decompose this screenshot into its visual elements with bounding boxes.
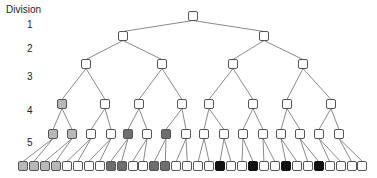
tree-edge <box>100 139 111 162</box>
tree-edge <box>300 139 319 162</box>
tree-edge <box>89 139 111 162</box>
tree-edge <box>319 139 330 162</box>
tree-edge <box>105 109 111 130</box>
tree-edge <box>243 109 253 130</box>
division-tree-diagram: Division 1 2 3 4 5 <box>0 0 377 178</box>
tree-edge <box>123 41 162 60</box>
tree-edge <box>139 69 162 100</box>
tree-edge <box>123 21 193 32</box>
tree-node-level-6 <box>292 161 302 171</box>
tree-node-level-6 <box>303 161 313 171</box>
tree-node-level-6 <box>248 161 258 171</box>
tree-node-level-4 <box>177 99 187 109</box>
tree-node-level-5 <box>48 129 58 139</box>
tree-node-level-3 <box>298 59 308 69</box>
tree-edge <box>331 109 339 130</box>
tree-edge <box>198 139 204 162</box>
tree-edge <box>263 139 264 162</box>
tree-edge <box>86 69 105 100</box>
tree-node-level-6 <box>325 161 335 171</box>
tree-edge <box>319 109 331 130</box>
tree-edge <box>287 69 303 100</box>
tree-edge <box>53 109 62 130</box>
tree-edge <box>233 41 264 60</box>
tree-edge <box>242 139 243 162</box>
tree-edge <box>319 139 341 162</box>
tree-edge <box>78 139 91 162</box>
tree-node-level-6 <box>29 161 39 171</box>
tree-node-level-5 <box>106 129 116 139</box>
tree-node-level-3 <box>157 59 167 69</box>
tree-edge <box>34 139 53 162</box>
tree-node-level-6 <box>18 161 28 171</box>
tree-edges <box>0 0 377 178</box>
tree-edge <box>204 109 209 130</box>
tree-node-level-1 <box>188 11 198 21</box>
tree-edge <box>182 109 186 130</box>
tree-node-level-5 <box>238 129 248 139</box>
tree-edge <box>193 21 264 32</box>
tree-node-level-6 <box>84 161 94 171</box>
tree-edge <box>220 139 224 162</box>
tree-node-level-6 <box>160 161 170 171</box>
tree-edge <box>162 69 182 100</box>
tree-node-level-5 <box>67 129 77 139</box>
tree-node-level-5 <box>181 129 191 139</box>
tree-node-level-3 <box>81 59 91 69</box>
tree-node-level-6 <box>73 161 83 171</box>
tree-node-level-4 <box>134 99 144 109</box>
tree-edge <box>128 109 139 130</box>
tree-node-level-6 <box>193 161 203 171</box>
tree-edge <box>209 69 233 100</box>
tree-edge <box>154 139 166 162</box>
tree-node-level-5 <box>258 129 268 139</box>
tree-edge <box>339 139 352 162</box>
tree-edge <box>166 109 182 130</box>
tree-node-level-6 <box>182 161 192 171</box>
tree-node-level-5 <box>199 129 209 139</box>
tree-node-level-6 <box>259 161 269 171</box>
tree-edge <box>62 109 72 130</box>
tree-node-level-4 <box>57 99 67 109</box>
tree-node-level-6 <box>314 161 324 171</box>
tree-edge <box>263 139 275 162</box>
tree-node-level-5 <box>295 129 305 139</box>
tree-node-level-6 <box>106 161 116 171</box>
tree-node-level-4 <box>204 99 214 109</box>
tree-edge <box>264 41 303 60</box>
tree-node-level-2 <box>118 31 128 41</box>
tree-node-level-6 <box>171 161 181 171</box>
tree-node-level-6 <box>204 161 214 171</box>
tree-node-level-5 <box>142 129 152 139</box>
tree-node-level-6 <box>215 161 225 171</box>
tree-edge <box>165 139 166 162</box>
tree-node-level-3 <box>228 59 238 69</box>
tree-node-level-4 <box>100 99 110 109</box>
tree-edge <box>287 109 300 130</box>
tree-node-level-6 <box>357 161 367 171</box>
tree-node-level-6 <box>281 161 291 171</box>
tree-node-level-6 <box>117 161 127 171</box>
tree-edge <box>303 69 331 100</box>
tree-edge <box>176 139 186 162</box>
tree-node-level-6 <box>149 161 159 171</box>
tree-node-level-4 <box>282 99 292 109</box>
tree-edge <box>224 139 231 162</box>
tree-node-level-2 <box>259 31 269 41</box>
tree-edge <box>91 109 105 130</box>
tree-edge <box>204 139 209 162</box>
tree-edge <box>62 69 86 100</box>
tree-edge <box>111 139 128 162</box>
tree-edge <box>186 139 187 162</box>
tree-node-level-5 <box>161 129 171 139</box>
tree-node-level-6 <box>237 161 247 171</box>
tree-edge <box>281 109 287 130</box>
tree-node-level-5 <box>334 129 344 139</box>
tree-node-level-6 <box>128 161 138 171</box>
tree-node-level-6 <box>95 161 105 171</box>
tree-edge <box>339 139 362 162</box>
tree-node-level-5 <box>86 129 96 139</box>
tree-node-level-6 <box>40 161 50 171</box>
tree-edge <box>139 109 147 130</box>
tree-edge <box>233 69 253 100</box>
